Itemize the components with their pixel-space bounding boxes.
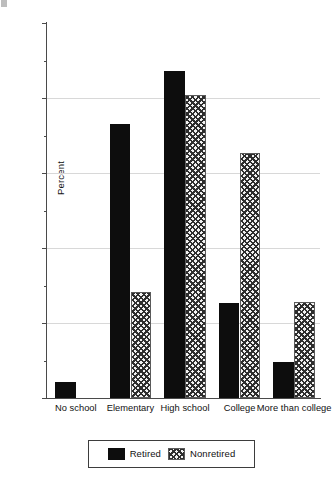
bar-nonretired: [294, 302, 315, 398]
y-tick-minor: [44, 136, 47, 137]
solid-black-swatch: [108, 448, 125, 460]
legend-entry: Retired: [108, 448, 161, 460]
page-corner-artifact: [1, 0, 7, 7]
y-tick-minor: [44, 286, 47, 287]
bar-retired: [273, 362, 294, 398]
bar-nonretired: [131, 292, 152, 399]
bar-retired: [219, 303, 240, 398]
legend-label: Retired: [130, 449, 161, 459]
y-tick-major: [42, 398, 47, 399]
bar-retired: [55, 382, 76, 399]
y-axis-title: Percent: [56, 138, 66, 218]
checkered-swatch: [168, 448, 185, 460]
y-tick-minor: [44, 211, 47, 212]
bar-chart-figure: Percent 01020304050 No schoolElementaryH…: [0, 0, 335, 479]
chart-legend: RetiredNonretired: [88, 440, 255, 468]
y-tick-minor: [44, 361, 47, 362]
legend-label: Nonretired: [190, 449, 235, 459]
bar-nonretired: [240, 153, 261, 398]
bar-retired: [110, 124, 131, 399]
bar-retired: [164, 71, 185, 398]
y-tick-minor: [44, 61, 47, 62]
y-tick-major: [42, 23, 47, 24]
x-axis-line: [46, 398, 321, 399]
legend-entry: Nonretired: [168, 448, 235, 460]
plot-area: Percent 01020304050: [47, 23, 320, 398]
bar-nonretired: [185, 95, 206, 398]
x-tick-label: More than college: [239, 403, 335, 414]
